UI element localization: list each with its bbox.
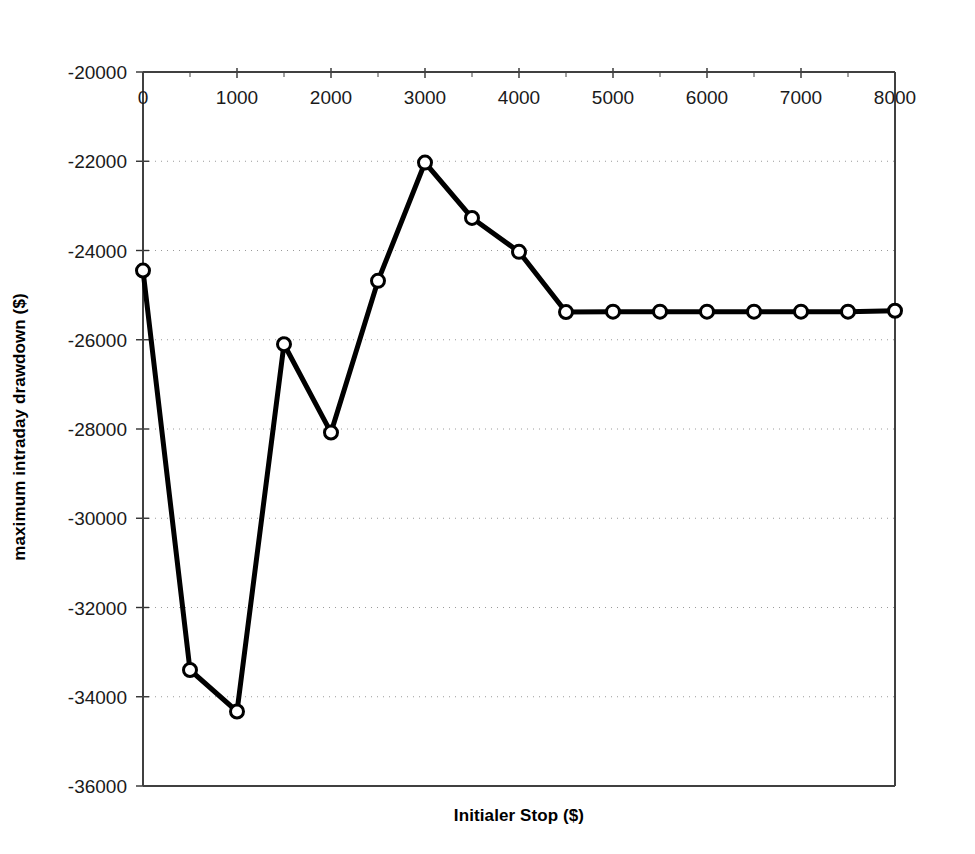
svg-text:1000: 1000 — [216, 87, 258, 108]
svg-text:-22000: -22000 — [68, 151, 127, 172]
gridlines — [143, 161, 895, 697]
svg-text:-36000: -36000 — [68, 776, 127, 797]
plot-area: -20000-22000-24000-26000-28000-30000-320… — [0, 0, 975, 854]
svg-text:-28000: -28000 — [68, 419, 127, 440]
svg-text:-20000: -20000 — [68, 62, 127, 83]
axis-major-ticks — [136, 68, 801, 786]
svg-text:0: 0 — [138, 87, 149, 108]
data-series-markers — [137, 156, 902, 718]
svg-text:6000: 6000 — [686, 87, 728, 108]
axis-frame — [143, 72, 895, 786]
svg-text:-32000: -32000 — [68, 598, 127, 619]
x-axis-title: Initialer Stop ($) — [143, 806, 895, 826]
y-axis-tick-labels: -20000-22000-24000-26000-28000-30000-320… — [68, 62, 127, 797]
svg-text:-24000: -24000 — [68, 241, 127, 262]
svg-text:2000: 2000 — [310, 87, 352, 108]
x-axis-tick-labels: 010002000300040005000600070008000 — [138, 87, 916, 108]
svg-text:-30000: -30000 — [68, 508, 127, 529]
svg-text:8000: 8000 — [874, 87, 916, 108]
svg-text:-26000: -26000 — [68, 330, 127, 351]
chart-figure: maximum intraday drawdown ($) -20000-220… — [0, 0, 975, 854]
svg-text:7000: 7000 — [780, 87, 822, 108]
svg-text:4000: 4000 — [498, 87, 540, 108]
svg-text:5000: 5000 — [592, 87, 634, 108]
svg-text:3000: 3000 — [404, 87, 446, 108]
svg-text:-34000: -34000 — [68, 687, 127, 708]
